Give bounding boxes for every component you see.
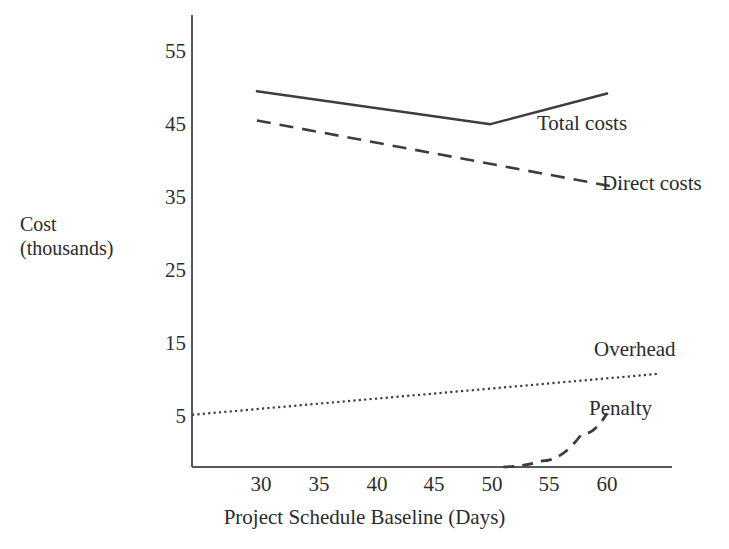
y-tick-label-25: 25 bbox=[146, 260, 186, 281]
y-tick-label-55: 55 bbox=[146, 41, 186, 62]
series-line-penalty bbox=[503, 413, 607, 467]
x-tick-label-30: 30 bbox=[241, 474, 281, 495]
x-axis-title: Project Schedule Baseline (Days) bbox=[0, 506, 729, 529]
y-tick-label-35: 35 bbox=[146, 187, 186, 208]
y-axis-title: Cost (thousands) bbox=[20, 212, 113, 260]
plot-area bbox=[0, 0, 729, 549]
series-label-total-costs: Total costs bbox=[537, 113, 627, 134]
x-tick-label-45: 45 bbox=[414, 474, 454, 495]
y-tick-label-45: 45 bbox=[146, 114, 186, 135]
series-label-direct-costs: Direct costs bbox=[602, 173, 702, 194]
x-tick-label-40: 40 bbox=[357, 474, 397, 495]
x-tick-label-60: 60 bbox=[587, 474, 627, 495]
y-tick-label-5: 5 bbox=[146, 406, 186, 427]
y-tick-label-15: 15 bbox=[146, 333, 186, 354]
series-label-overhead: Overhead bbox=[594, 339, 676, 360]
cost-vs-schedule-line-chart: 55 45 35 25 15 5 30 35 40 45 50 55 60 Co… bbox=[0, 0, 729, 549]
x-tick-label-55: 55 bbox=[529, 474, 569, 495]
y-axis-title-line1: Cost bbox=[20, 212, 113, 236]
series-label-penalty: Penalty bbox=[589, 398, 652, 419]
y-axis-title-line2: (thousands) bbox=[20, 236, 113, 260]
x-tick-label-35: 35 bbox=[299, 474, 339, 495]
x-tick-label-50: 50 bbox=[472, 474, 512, 495]
